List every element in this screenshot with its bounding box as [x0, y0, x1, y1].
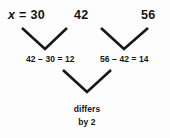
- conclusion-line-1: differs: [57, 104, 117, 114]
- math-diagram: x = 30 42 56 42 – 30 = 12 56 – 42 = 14 d…: [0, 0, 170, 138]
- conclusion-line-2: by 2: [57, 117, 117, 127]
